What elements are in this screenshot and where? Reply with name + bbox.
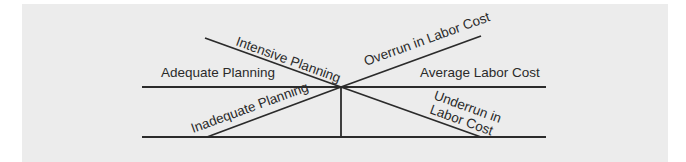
label-average-labor-cost: Average Labor Cost [420, 65, 540, 80]
label-adequate-planning: Adequate Planning [161, 65, 275, 80]
planning-labor-cost-diagram: Intensive Planning Adequate Planning Ina… [0, 0, 686, 162]
